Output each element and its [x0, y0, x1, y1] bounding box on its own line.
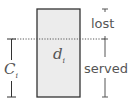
- lost-bracket: [102, 9, 108, 12]
- lost-label: lost: [91, 17, 114, 30]
- served-label: served: [84, 62, 128, 75]
- capacity-label: Ci: [4, 62, 18, 80]
- demand-label: di: [53, 47, 65, 65]
